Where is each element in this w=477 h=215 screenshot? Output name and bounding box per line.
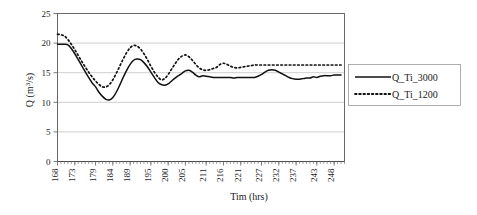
x-tick-label-211: 211 (198, 169, 208, 182)
legend-label-0: Q_Ti_3000 (392, 72, 438, 83)
legend-label-1: Q_Ti_1200 (392, 89, 438, 100)
x-tick-label-173: 173 (67, 168, 77, 182)
y-axis-title: Q (m3/s) (24, 73, 36, 107)
y-tick-label-15: 15 (42, 68, 52, 78)
x-tick-label-195: 195 (143, 168, 153, 182)
y-axis-title-group: Q (m3/s) (24, 73, 36, 107)
chart-container: 0510152025 16817317918418919520020521121… (0, 0, 477, 215)
x-tick-label-205: 205 (177, 168, 187, 182)
y-tick-label-0: 0 (46, 157, 51, 167)
x-tick-label-216: 216 (215, 168, 225, 182)
x-axis-title-group: Tim (hrs) (230, 191, 268, 203)
chart-legend[interactable]: Q_Ti_3000 Q_Ti_1200 (349, 65, 461, 106)
x-tick-label-237: 237 (288, 168, 298, 182)
x-tick-label-200: 200 (160, 168, 170, 182)
line-chart-figure: 0510152025 16817317918418919520020521121… (0, 0, 477, 215)
x-tick-label-184: 184 (105, 168, 115, 182)
x-tick-label-221: 221 (233, 169, 243, 183)
x-tick-label-248: 248 (326, 168, 336, 182)
x-tick-label-243: 243 (309, 168, 319, 182)
x-axis-title: Tim (hrs) (230, 191, 268, 203)
x-tick-label-179: 179 (88, 168, 98, 182)
x-tick-label-227: 227 (254, 168, 264, 182)
y-tick-label-10: 10 (42, 98, 52, 108)
x-tick-label-189: 189 (122, 168, 132, 182)
y-tick-label-20: 20 (42, 38, 52, 48)
x-tick-label-168: 168 (50, 168, 60, 182)
y-tick-label-25: 25 (42, 9, 52, 19)
y-tick-label-5: 5 (46, 127, 51, 137)
x-tick-label-232: 232 (271, 169, 281, 183)
